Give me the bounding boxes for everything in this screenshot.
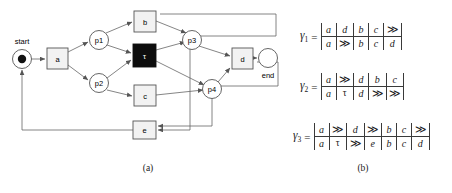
petri-net-diagram: p1 p2 p3 p4 a b τ c d (0, 0, 285, 160)
gamma-2-name: γ2 (300, 79, 308, 94)
gamma-1-equals: = (311, 31, 317, 43)
cell: ≫ (347, 137, 365, 151)
gamma-3-name: γ3 (293, 129, 301, 144)
cell: ≫ (336, 73, 354, 87)
place-p2-label: p2 (95, 79, 103, 88)
cell: ≫ (336, 37, 354, 51)
arc-a-to-p2 (68, 65, 88, 80)
cell: τ (329, 137, 347, 151)
cell: ≫ (329, 123, 347, 137)
cell: τ (336, 87, 354, 101)
gamma-3-equals: = (304, 131, 310, 143)
arc-p4-to-e (158, 98, 212, 126)
cell: c (369, 23, 384, 37)
gamma-1-top-row: a d b c ≫ (321, 23, 401, 37)
alignment-gamma-3: γ3 = a ≫ d ≫ b c ≫ a τ ≫ e b c (293, 123, 430, 150)
place-p4-label: p4 (208, 85, 216, 94)
cell: d (336, 23, 354, 37)
arc-p2-to-tau (107, 60, 131, 78)
cell: c (386, 73, 404, 87)
cell: d (384, 37, 402, 51)
gamma-1-bottom-row: a ≫ b c d (321, 37, 401, 51)
transition-e-label: e (142, 126, 146, 135)
gamma-2-equals: = (311, 81, 317, 93)
cell: c (397, 137, 412, 151)
transition-d-label: d (240, 55, 244, 64)
cell: b (354, 37, 369, 51)
arc-tau-to-p3 (156, 42, 185, 50)
transition-c-label: c (143, 92, 147, 101)
transition-tau-label: τ (143, 52, 146, 61)
token-start (18, 55, 26, 63)
gamma-2-top-row: a ≫ d b c (321, 73, 404, 87)
arc-p4-to-d (218, 68, 230, 82)
caption-a: (a) (118, 163, 178, 173)
alignment-gamma-2: γ2 = a ≫ d b c a τ d ≫ ≫ (300, 73, 404, 100)
gamma-3-table: a ≫ d ≫ b c ≫ a τ ≫ e b c d (314, 123, 430, 150)
cell: ≫ (384, 23, 402, 37)
cell: d (354, 87, 369, 101)
place-p1-label: p1 (95, 36, 103, 45)
gamma-2-bottom-row: a τ d ≫ ≫ (321, 87, 404, 101)
gamma-3-bottom-row: a τ ≫ e b c d (314, 137, 429, 151)
cell: b (369, 73, 387, 87)
arc-a-to-p1 (68, 42, 88, 52)
place-end[interactable] (259, 49, 278, 68)
arc-c-to-p4 (156, 90, 203, 95)
gamma-1-table: a d b c ≫ a ≫ b c d (321, 23, 402, 50)
arc-p1-to-b (106, 22, 132, 33)
cell: c (369, 37, 384, 51)
cell: d (347, 123, 365, 137)
gamma-2-table: a ≫ d b c a τ d ≫ ≫ (321, 73, 405, 100)
cell: a (321, 23, 336, 37)
petri-net-panel: p1 p2 p3 p4 a b τ c d (0, 0, 285, 193)
cell: e (364, 137, 382, 151)
cell: a (321, 87, 336, 101)
arc-p3-to-d (199, 46, 230, 56)
cell: b (382, 123, 397, 137)
cell: a (314, 123, 329, 137)
alignment-gamma-1: γ1 = a d b c ≫ a ≫ b c d (300, 23, 402, 50)
start-label: start (15, 37, 31, 46)
transition-b-label: b (143, 18, 147, 27)
cell: a (314, 137, 329, 151)
cell: d (412, 137, 430, 151)
cell: ≫ (412, 123, 430, 137)
figure-root: p1 p2 p3 p4 a b τ c d (0, 0, 452, 193)
cell: a (321, 37, 336, 51)
cell: b (382, 137, 397, 151)
cell: d (354, 73, 369, 87)
arc-p3-to-e (158, 49, 190, 130)
gamma-3-top-row: a ≫ d ≫ b c ≫ (314, 123, 429, 137)
cell: ≫ (386, 87, 404, 101)
cell: ≫ (369, 87, 387, 101)
caption-b: (b) (333, 163, 393, 173)
arc-p2-to-c (107, 90, 132, 96)
arc-tau-to-p4 (156, 61, 204, 85)
arc-rail-top (160, 14, 276, 36)
arc-e-to-start (22, 70, 133, 130)
cell: b (354, 23, 369, 37)
arc-b-to-p3 (156, 21, 186, 33)
alignments-panel: γ1 = a d b c ≫ a ≫ b c d (285, 0, 452, 193)
end-label: end (262, 71, 275, 80)
transition-group: a b τ c d e (47, 11, 253, 139)
cell: ≫ (364, 123, 382, 137)
cell: a (321, 73, 336, 87)
cell: c (397, 123, 412, 137)
place-p3-label: p3 (188, 36, 196, 45)
gamma-1-name: γ1 (300, 29, 308, 44)
arc-p1-to-tau (107, 45, 131, 53)
